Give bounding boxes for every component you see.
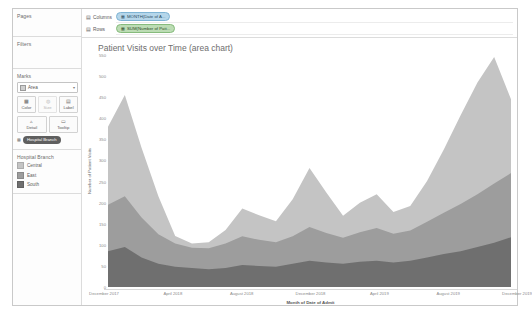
- legend-item-east[interactable]: East: [17, 172, 78, 179]
- columns-pill-label: MONTH(Date of A...: [127, 14, 165, 19]
- size-shelf-label: Size: [43, 105, 51, 110]
- x-axis-tick-label: December 2019: [502, 291, 532, 296]
- tableau-worksheet-window: Pages Filters Marks Area ▾ ▩ Color ◍: [12, 8, 518, 306]
- marks-panel: Pages Filters Marks Area ▾ ▩ Color ◍: [13, 9, 82, 305]
- y-axis-title: Number of Patient Visits: [86, 55, 93, 287]
- mark-type-select[interactable]: Area ▾: [17, 82, 78, 93]
- legend-swatch: [17, 181, 24, 188]
- legend-swatch: [17, 172, 24, 179]
- label-icon: ▤: [66, 99, 71, 104]
- pages-card-title: Pages: [17, 13, 78, 19]
- marks-color-pill[interactable]: Hospital Branch: [23, 136, 61, 144]
- measure-icon: ▦: [121, 26, 125, 31]
- calendar-icon: ▦: [121, 14, 125, 19]
- legend-item-label: East: [27, 173, 36, 178]
- tooltip-icon: ▭: [61, 119, 66, 124]
- y-axis-tick-label: 550: [99, 53, 106, 58]
- rows-icon: ▤: [86, 27, 91, 32]
- rows-shelf-label: Rows: [93, 27, 105, 32]
- size-icon: ◍: [46, 99, 50, 104]
- color-shelf-label: Color: [21, 105, 31, 110]
- marks-shelf-row-1: ▩ Color ◍ Size ▤ Label: [17, 96, 78, 113]
- mark-type-value: Area: [28, 85, 38, 90]
- rows-shelf[interactable]: ▤ Rows ▦ SUM(Number of Pati...: [86, 24, 513, 34]
- marks-shelf-row-2: ▵ Detail ▭ Tooltip: [17, 116, 78, 133]
- color-icon: ▩: [24, 99, 29, 104]
- pages-card[interactable]: Pages: [13, 9, 81, 37]
- columns-shelf-label: Columns: [93, 15, 112, 20]
- y-axis-tick-label: 100: [99, 242, 106, 247]
- y-axis-tick-label: 500: [99, 74, 106, 79]
- x-axis-title: Month of Date of Admit: [104, 299, 517, 305]
- grid-icon: ▤: [86, 15, 91, 20]
- y-axis-tick-label: 200: [99, 200, 106, 205]
- chevron-down-icon: ▾: [73, 86, 75, 90]
- columns-drop-zone[interactable]: ▦ MONTH(Date of A...: [116, 12, 513, 23]
- color-legend-title: Hospital Branch: [17, 154, 78, 160]
- legend-item-central[interactable]: Central: [17, 162, 78, 169]
- legend-swatch: [17, 162, 24, 169]
- x-axis-tick-label: April 2019: [370, 291, 389, 296]
- size-shelf[interactable]: ◍ Size: [38, 96, 57, 113]
- area-chart-svg: [108, 55, 511, 287]
- detail-shelf-label: Detail: [26, 125, 37, 130]
- color-shelf[interactable]: ▩ Color: [17, 96, 36, 113]
- plot-container: Number of Patient Visits 050100150200250…: [82, 55, 517, 289]
- x-axis-tick-label: August 2018: [230, 291, 254, 296]
- panel-empty-space: [13, 194, 81, 305]
- filters-card[interactable]: Filters: [13, 37, 81, 69]
- marks-color-assignment: ▩ Hospital Branch: [17, 136, 78, 144]
- y-axis-tick-label: 300: [99, 158, 106, 163]
- chart-title: Patient Visits over Time (area chart): [82, 38, 517, 55]
- detail-icon: ▵: [30, 119, 33, 124]
- y-axis-tick-label: 250: [99, 179, 106, 184]
- marks-card-title: Marks: [17, 73, 78, 79]
- rows-shelf-name: ▤ Rows: [86, 27, 112, 32]
- x-axis-tick-label: December 2018: [296, 291, 326, 296]
- label-shelf-label: Label: [63, 105, 73, 110]
- rows-drop-zone[interactable]: ▦ SUM(Number of Pati...: [116, 24, 513, 35]
- detail-shelf[interactable]: ▵ Detail: [17, 116, 47, 133]
- x-axis-ticks: December 2017April 2018August 2018Decemb…: [104, 289, 517, 299]
- area-mark-icon: [20, 85, 26, 91]
- columns-shelf[interactable]: ▤ Columns ▦ MONTH(Date of A...: [86, 12, 513, 22]
- shelf-container: ▤ Columns ▦ MONTH(Date of A... ▤ Rows: [82, 9, 517, 38]
- columns-shelf-name: ▤ Columns: [86, 15, 112, 20]
- y-axis-tick-label: 50: [101, 263, 106, 268]
- rows-pill[interactable]: ▦ SUM(Number of Pati...: [116, 24, 175, 34]
- y-axis-ticks: 050100150200250300350400450500550: [93, 55, 108, 287]
- legend-item-label: South: [27, 182, 39, 187]
- legend-item-label: Central: [27, 163, 42, 168]
- legend-item-south[interactable]: South: [17, 181, 78, 188]
- filters-card-title: Filters: [17, 41, 78, 47]
- color-legend: Hospital Branch Central East South: [13, 150, 81, 195]
- tooltip-shelf[interactable]: ▭ Tooltip: [49, 116, 79, 133]
- y-axis-tick-label: 350: [99, 137, 106, 142]
- label-shelf[interactable]: ▤ Label: [59, 96, 78, 113]
- y-axis-tick-label: 150: [99, 221, 106, 226]
- rows-pill-label: SUM(Number of Pati...: [127, 26, 170, 31]
- tooltip-shelf-label: Tooltip: [57, 125, 69, 130]
- y-axis-tick-label: 400: [99, 116, 106, 121]
- color-legend-icon: ▩: [17, 138, 21, 142]
- x-axis-tick-label: December 2017: [89, 291, 119, 296]
- marks-card: Marks Area ▾ ▩ Color ◍ Size ▤: [13, 69, 81, 150]
- columns-pill[interactable]: ▦ MONTH(Date of A...: [116, 12, 170, 22]
- x-axis-tick-label: August 2019: [436, 291, 460, 296]
- worksheet-area: ▤ Columns ▦ MONTH(Date of A... ▤ Rows: [82, 9, 517, 305]
- x-axis-tick-label: April 2018: [163, 291, 182, 296]
- area-chart-plot[interactable]: [108, 55, 511, 287]
- y-axis-tick-label: 450: [99, 95, 106, 100]
